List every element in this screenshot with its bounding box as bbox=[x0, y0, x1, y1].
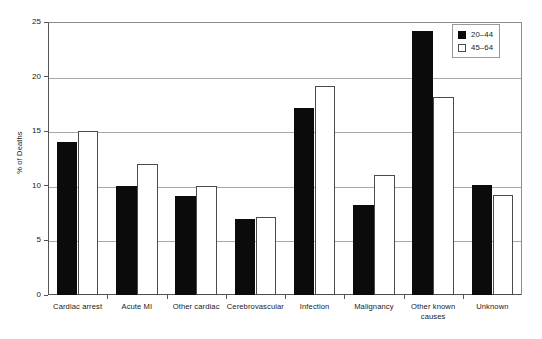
bar-series-b bbox=[196, 186, 217, 295]
y-axis-tick-label: 0 bbox=[37, 289, 41, 301]
legend-label: 20–44 bbox=[471, 30, 493, 39]
x-axis-tick-group bbox=[48, 295, 522, 301]
y-axis-tick: 10 bbox=[0, 180, 48, 192]
y-axis-tick: 20 bbox=[0, 71, 48, 83]
bar-series-a bbox=[472, 185, 493, 295]
bar-series-b bbox=[493, 195, 514, 295]
y-axis-tick-label: 25 bbox=[32, 16, 41, 28]
legend-swatch-icon bbox=[458, 44, 466, 52]
bar-series-a bbox=[353, 205, 374, 295]
bar-series-a bbox=[57, 142, 78, 295]
bar-group bbox=[463, 22, 522, 295]
x-axis-tick-mark bbox=[463, 295, 464, 299]
legend-swatch-icon bbox=[458, 31, 466, 39]
x-axis-label-group: Cardiac arrestAcute MIOther cardiacCereb… bbox=[48, 302, 522, 336]
x-axis-label: Unknown bbox=[455, 302, 530, 312]
bar-group bbox=[107, 22, 166, 295]
y-axis-tick: 0 bbox=[0, 289, 48, 301]
bar-series-a bbox=[294, 108, 315, 295]
bar-group bbox=[285, 22, 344, 295]
legend-label: 45–64 bbox=[471, 43, 493, 52]
bar-series-b bbox=[374, 175, 395, 295]
bar-series-a bbox=[175, 196, 196, 295]
bar-group bbox=[48, 22, 107, 295]
legend-item: 45–64 bbox=[458, 42, 493, 53]
y-axis-tick: 25 bbox=[0, 16, 48, 28]
x-axis-tick-mark bbox=[107, 295, 108, 299]
x-axis-tick-mark bbox=[344, 295, 345, 299]
bar-group bbox=[167, 22, 226, 295]
y-axis-tick: 15 bbox=[0, 125, 48, 137]
x-axis-tick-mark bbox=[167, 295, 168, 299]
x-axis-tick-mark bbox=[404, 295, 405, 299]
bar-series-b bbox=[433, 97, 454, 295]
legend-item: 20–44 bbox=[458, 29, 493, 40]
bar-series-a bbox=[116, 186, 137, 295]
bar-chart: % of Deaths 0510152025 Cardiac arrestAcu… bbox=[0, 0, 542, 339]
x-axis-label-line: Unknown bbox=[455, 302, 530, 312]
x-axis-tick-mark bbox=[226, 295, 227, 299]
y-axis-tick-label: 5 bbox=[37, 234, 41, 246]
x-axis-tick-mark bbox=[285, 295, 286, 299]
bar-series-b bbox=[78, 131, 99, 295]
y-axis-tick-label: 20 bbox=[32, 71, 41, 83]
chart-legend: 20–4445–64 bbox=[452, 24, 500, 58]
bar-series-a bbox=[412, 31, 433, 295]
bar-series-b bbox=[315, 86, 336, 295]
x-axis-label-line: causes bbox=[396, 312, 471, 322]
y-axis-tick-label: 15 bbox=[32, 125, 41, 137]
bar-group bbox=[404, 22, 463, 295]
bar-series-a bbox=[235, 219, 256, 295]
bar-group bbox=[226, 22, 285, 295]
bar-series-layer bbox=[48, 22, 522, 295]
y-axis-tick-group: 0510152025 bbox=[0, 0, 48, 339]
y-axis-tick-label: 10 bbox=[32, 180, 41, 192]
bar-group bbox=[344, 22, 403, 295]
y-axis-tick: 5 bbox=[0, 234, 48, 246]
bar-series-b bbox=[137, 164, 158, 295]
bar-series-b bbox=[256, 217, 277, 295]
